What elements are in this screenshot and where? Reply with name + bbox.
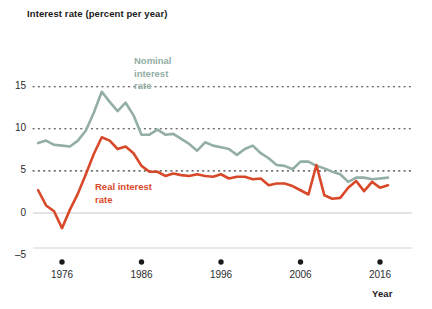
series-line-real bbox=[38, 137, 388, 228]
x-axis-title: Year bbox=[372, 288, 392, 299]
series-label-nominal-line-1: Nominal bbox=[134, 55, 171, 68]
interest-rate-chart: Interest rate (percent per year) Nominal… bbox=[0, 0, 432, 309]
x-axis-tick-dot bbox=[377, 259, 382, 264]
x-axis-tick-label: 2006 bbox=[280, 269, 322, 280]
x-axis-tick-dot bbox=[139, 259, 144, 264]
series-label-nominal: Nominalinterestrate bbox=[134, 55, 171, 93]
y-axis-tick-label: 0 bbox=[4, 207, 26, 218]
series-label-real-line-2: rate bbox=[95, 194, 152, 207]
y-axis-tick-label: –5 bbox=[4, 249, 26, 260]
x-axis-tick-label: 1986 bbox=[121, 269, 163, 280]
y-axis-tick-label: 15 bbox=[4, 80, 26, 91]
x-axis-tick-dot bbox=[218, 259, 223, 264]
x-axis-tick-label: 2016 bbox=[359, 269, 401, 280]
y-axis-tick-label: 10 bbox=[4, 122, 26, 133]
chart-plot-area bbox=[0, 0, 432, 309]
series-line-nominal bbox=[38, 92, 388, 182]
y-axis-tick-label: 5 bbox=[4, 164, 26, 175]
series-label-real-line-1: Real interest bbox=[95, 181, 152, 194]
series-label-nominal-line-3: rate bbox=[134, 80, 171, 93]
x-axis-tick-dot bbox=[59, 259, 64, 264]
series-label-nominal-line-2: interest bbox=[134, 68, 171, 81]
x-axis-tick-label: 1976 bbox=[41, 269, 83, 280]
x-axis-tick-dot bbox=[298, 259, 303, 264]
series-label-real: Real interestrate bbox=[95, 181, 152, 206]
x-axis-tick-label: 1996 bbox=[200, 269, 242, 280]
